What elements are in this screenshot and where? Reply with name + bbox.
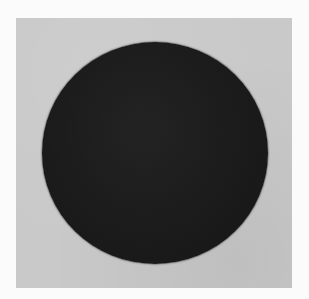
- bleed-through-text: [70, 2, 240, 10]
- dark-disc: [42, 42, 268, 264]
- page: [0, 0, 309, 299]
